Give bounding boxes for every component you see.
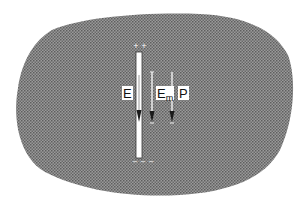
bottom-charge-marks: − − −: [132, 159, 154, 166]
label-p: P: [178, 86, 189, 100]
label-em-subscript: m: [166, 93, 174, 103]
dielectric-body: [16, 14, 293, 196]
label-em-text: E: [157, 86, 166, 101]
label-p-text: P: [179, 86, 188, 101]
label-e-text: E: [123, 86, 132, 101]
label-em: Em: [156, 86, 174, 100]
dielectric-diagram: [0, 0, 306, 207]
top-charge-marks: + +: [133, 43, 147, 50]
label-e: E: [122, 86, 133, 100]
